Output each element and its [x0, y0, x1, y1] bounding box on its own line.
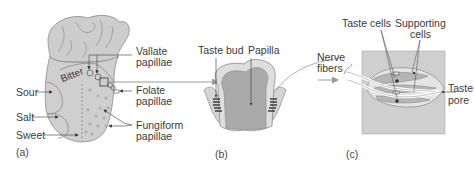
tongue-illustration [45, 15, 129, 142]
label-pore-2: pore [448, 95, 469, 106]
label-folate-2: papillae [136, 96, 172, 107]
label-pore-1: Taste [448, 83, 473, 94]
panel-label-b: (b) [215, 148, 228, 160]
label-sour: Sour [16, 87, 38, 98]
label-vallate-2: papillae [136, 57, 172, 68]
label-papilla: Papilla [248, 45, 280, 56]
label-taste-bud: Taste bud [198, 45, 244, 56]
taste-bud-illustration [344, 30, 456, 134]
label-salt: Salt [16, 112, 34, 123]
label-nerve-2: fibers [317, 63, 343, 74]
label-fungiform-2: papillae [136, 131, 172, 142]
label-sweet: Sweet [16, 130, 45, 141]
taste-anatomy-figure: Bitter Sour Salt Sweet (a) Vallate papil… [0, 0, 474, 170]
panel-label-a: (a) [16, 146, 29, 158]
label-taste-cells: Taste cells [342, 18, 391, 29]
label-supporting-2: cells [410, 29, 431, 40]
panel-label-c: (c) [346, 148, 358, 160]
